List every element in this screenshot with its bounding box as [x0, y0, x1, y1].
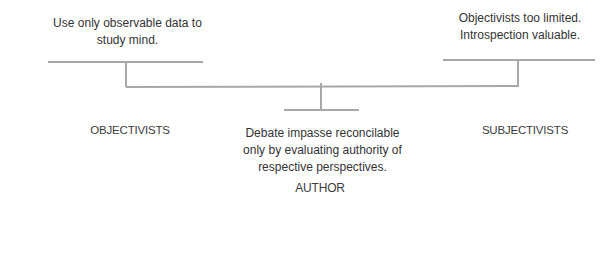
center-claim-line-2: only by evaluating authority of: [225, 142, 420, 159]
right-claim: Objectivists too limited. Introspection …: [440, 10, 600, 44]
right-claim-line-1: Objectivists too limited.: [440, 10, 600, 27]
objectivists-label: OBJECTIVISTS: [75, 124, 185, 136]
left-claim-line-1: Use only observable data to: [40, 15, 215, 32]
center-claim-line-1: Debate impasse reconcilable: [225, 125, 420, 142]
center-claim-line-3: respective perspectives.: [225, 159, 420, 176]
author-label: AUTHOR: [270, 181, 370, 195]
subjectivists-label: SUBJECTIVISTS: [470, 124, 580, 136]
right-claim-line-2: Introspection valuable.: [440, 27, 600, 44]
left-claim-line-2: study mind.: [40, 32, 215, 49]
left-claim: Use only observable data to study mind.: [40, 15, 215, 49]
main-bar: [126, 86, 519, 87]
center-claim: Debate impasse reconcilable only by eval…: [225, 125, 420, 176]
